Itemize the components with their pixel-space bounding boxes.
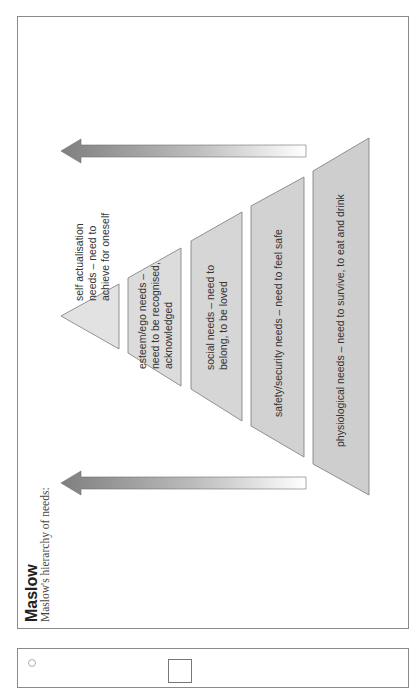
- level-label: belong, to be loved: [217, 281, 229, 370]
- level-label: need to be recognised,: [149, 262, 161, 369]
- level-label: self actualisation: [73, 223, 85, 301]
- maslow-panel: self actualisation needs – need to achie…: [17, 16, 409, 629]
- arrow-up-hierarchy-icon: [61, 139, 306, 163]
- page-subtitle: Maslow's hierarchy of needs:: [39, 487, 51, 622]
- pyramid-diagram: self actualisation needs – need to achie…: [18, 17, 410, 630]
- corner-mark-icon: [28, 659, 36, 667]
- level-label: achieve for oneself: [99, 213, 111, 301]
- level-label: acknowledged: [162, 302, 174, 369]
- level-label: safety/security needs – need to feel saf…: [272, 229, 284, 417]
- level-label: social needs – need to: [204, 265, 216, 370]
- level-label: needs – need to: [86, 226, 98, 301]
- level-label: physiological needs – need to survive, t…: [334, 194, 346, 447]
- level-label: esteem/ego needs –: [136, 274, 148, 369]
- page-number-box: [168, 659, 192, 683]
- next-panel: [17, 648, 409, 688]
- arrow-up-hierarchy-icon: [61, 471, 306, 495]
